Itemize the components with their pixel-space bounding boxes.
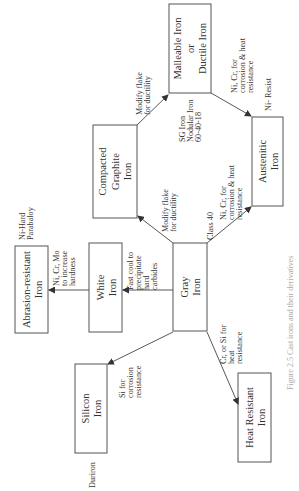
label-cr-si-heat: Cr, or Si for heat resistance — [219, 324, 244, 364]
svg-text:Ductile Iron: Ductile Iron — [197, 22, 208, 74]
note-ni-hard: Ni-Hard Parabaloy — [18, 206, 35, 240]
gray-label: Gray Iron — [179, 276, 202, 298]
svg-text:Iron: Iron — [191, 278, 202, 296]
svg-text:Silicon: Silicon — [80, 393, 91, 424]
svg-text:60-40-18: 60-40-18 — [194, 112, 203, 142]
label-modify-flake-2: Modify flake for ductility — [135, 72, 152, 115]
note-ni-resist: Ni- Resist — [264, 77, 273, 111]
svg-text:resistance: resistance — [235, 331, 244, 364]
svg-text:or: or — [185, 44, 196, 53]
svg-text:Figure 2.5 Cast irons and the: Figure 2.5 Cast irons and their derivati… — [286, 256, 295, 390]
svg-text:Austenitic: Austenitic — [257, 140, 268, 183]
svg-text:Parabaloy: Parabaloy — [26, 206, 35, 240]
cast-iron-diagram: Malleable Iron or Ductile Iron Compacted… — [0, 0, 299, 491]
svg-text:Iron: Iron — [33, 280, 44, 298]
svg-text:for ductility: for ductility — [143, 75, 152, 115]
svg-text:Iron: Iron — [107, 278, 118, 296]
svg-text:Iron: Iron — [256, 408, 267, 426]
svg-text:resistance: resistance — [235, 187, 244, 220]
label-ni-cr-corrosion-heat-upper: Ni, Cr, for corrosion & heat resistance — [230, 37, 255, 93]
arrow-gray-to-silicon — [108, 332, 173, 364]
svg-text:Graphite: Graphite — [110, 153, 121, 190]
svg-text:Iron: Iron — [122, 162, 133, 180]
arrow-malleable-to-austenitic — [211, 93, 251, 116]
svg-text:resistance: resistance — [246, 60, 255, 93]
svg-text:Ni- Resist: Ni- Resist — [264, 77, 273, 111]
figure-caption: Figure 2.5 Cast irons and their derivati… — [286, 256, 295, 390]
svg-text:hardness: hardness — [68, 257, 77, 286]
label-modify-flake-1: Modify flake for ductility — [161, 189, 178, 232]
svg-text:Compacted: Compacted — [97, 147, 108, 196]
svg-text:resistance: resistance — [134, 365, 143, 398]
svg-text:Class 40: Class 40 — [206, 212, 215, 240]
svg-text:Iron: Iron — [269, 152, 280, 170]
svg-text:Duriron: Duriron — [88, 462, 97, 488]
note-duriron: Duriron — [88, 462, 97, 488]
label-si-corrosion: Si for corrosion resistance — [118, 365, 143, 398]
svg-text:White: White — [95, 274, 106, 300]
note-sg-iron: SG Iron Nodular Iron 60-40-18 — [178, 99, 203, 142]
svg-text:Gray: Gray — [179, 276, 190, 298]
label-ni-cr-corrosion-heat-lower: Ni, Cr, for corrosion & heat resistance — [219, 164, 244, 220]
edge-labels: Fast cool to precipitate hard carbides N… — [52, 37, 255, 398]
label-ni-cr-mo: Ni, Cr, Mo to increase hardness — [52, 250, 77, 286]
svg-text:Heat Resistant: Heat Resistant — [244, 387, 255, 448]
svg-text:Abrasion-resistant: Abrasion-resistant — [21, 251, 32, 328]
label-fast-cool: Fast cool to precipitate hard carbides — [126, 252, 159, 290]
svg-text:carbides: carbides — [150, 263, 159, 290]
svg-text:Iron: Iron — [92, 399, 103, 417]
note-class-40: Class 40 — [206, 212, 215, 240]
svg-text:for ductility: for ductility — [169, 192, 178, 232]
svg-text:Malleable Iron: Malleable Iron — [172, 17, 183, 80]
